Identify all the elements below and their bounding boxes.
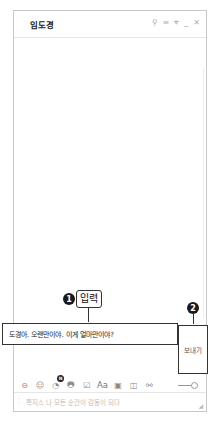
titlebar-icons: ⚲ ≡ ⌖ _ ✕ xyxy=(152,18,200,28)
callout-leader-1 xyxy=(88,308,89,322)
footer-text: 쪽지스 나 모든 순간이 감동이 되다 xyxy=(26,397,120,407)
send-button[interactable]: 보내기 xyxy=(178,325,208,374)
callout-2: 2 xyxy=(187,302,199,314)
chat-title: 임도경 xyxy=(30,18,54,30)
callout-leader-2 xyxy=(193,314,194,324)
input-toolbar: ⊖ ☺ ◔ N 🖶 ☑ Aa ▣ ◫ ⚯ xyxy=(18,377,202,393)
search-icon[interactable]: ⚲ xyxy=(152,18,158,28)
close-icon[interactable]: ✕ xyxy=(193,18,200,28)
scrollbar[interactable] xyxy=(203,68,204,318)
calendar-icon[interactable]: ◫ xyxy=(127,379,140,392)
emoticon-icon[interactable]: ⊖ xyxy=(18,379,31,392)
font-icon[interactable]: Aa xyxy=(96,379,109,392)
new-badge: N xyxy=(57,375,64,382)
checklist-icon[interactable]: ☑ xyxy=(80,379,93,392)
sticker-button[interactable]: ◔ N xyxy=(49,379,62,392)
sticker-icon: ◔ xyxy=(52,381,59,390)
resize-grip-icon[interactable]: ◢ xyxy=(198,402,203,409)
chat-window: 임도경 ⚲ ≡ ⌖ _ ✕ 도경아. 오랜만이야. 이게 얼마만이야? 보내기 … xyxy=(13,10,207,412)
link-icon[interactable]: ⚯ xyxy=(143,379,156,392)
opacity-slider[interactable] xyxy=(178,382,198,388)
minimize-icon[interactable]: _ xyxy=(184,18,188,28)
drag-handle-icon: ·· xyxy=(18,397,20,405)
smile-icon[interactable]: ☺ xyxy=(34,379,47,392)
message-area xyxy=(14,38,206,323)
file-icon[interactable]: 🖶 xyxy=(65,379,78,392)
footer-banner[interactable]: ·· 쪽지스 나 모든 순간이 감동이 되다 ◢ xyxy=(14,392,206,411)
send-button-label: 보내기 xyxy=(184,345,202,355)
screen-capture-icon[interactable]: ▣ xyxy=(112,379,125,392)
callout-1: 1 입력 xyxy=(63,290,102,308)
callout-number-2: 2 xyxy=(187,302,199,314)
pin-icon[interactable]: ⌖ xyxy=(174,18,179,28)
callout-number-1: 1 xyxy=(63,293,75,305)
input-area: 도경아. 오랜만이야. 이게 얼마만이야? 보내기 xyxy=(14,323,208,373)
menu-icon[interactable]: ≡ xyxy=(163,18,170,28)
title-bar[interactable]: 임도경 ⚲ ≡ ⌖ _ ✕ xyxy=(14,11,206,38)
message-input[interactable]: 도경아. 오랜만이야. 이게 얼마만이야? xyxy=(2,323,178,345)
slider-knob[interactable] xyxy=(191,382,198,389)
callout-label-1: 입력 xyxy=(76,290,102,308)
